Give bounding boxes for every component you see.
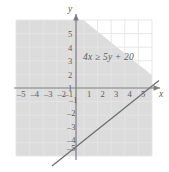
y-tick-pos1: 1: [68, 84, 72, 93]
graph-figure: y x 4x ≥ 5y + 20 –5 –4 –3 –2 –1 1 2 3 4 …: [0, 0, 169, 172]
x-tick-neg3: –3: [44, 90, 53, 99]
x-tick-pos4: 4: [128, 90, 132, 99]
y-tick-neg3: –3: [67, 123, 76, 132]
x-tick-neg5: –5: [17, 90, 26, 99]
y-tick-neg2: –2: [67, 109, 76, 118]
y-tick-pos4: 4: [68, 44, 72, 53]
y-axis-label: y: [68, 5, 72, 15]
coordinate-plane-svg: [0, 0, 169, 172]
x-tick-pos5: 5: [141, 90, 145, 99]
y-tick-pos2: 2: [68, 71, 72, 80]
x-tick-pos2: 2: [101, 90, 105, 99]
x-tick-neg4: –4: [31, 90, 40, 99]
y-tick-neg5: –5: [67, 144, 76, 153]
x-axis-label: x: [159, 90, 163, 100]
inequality-annotation: 4x ≥ 5y + 20: [83, 53, 134, 63]
x-tick-pos3: 3: [114, 90, 118, 99]
y-tick-neg1: –1: [69, 96, 78, 105]
y-tick-pos3: 3: [68, 57, 72, 66]
y-tick-pos5: 5: [68, 30, 72, 39]
y-axis-arrow-icon: [73, 14, 79, 21]
x-tick-pos1: 1: [87, 90, 91, 99]
